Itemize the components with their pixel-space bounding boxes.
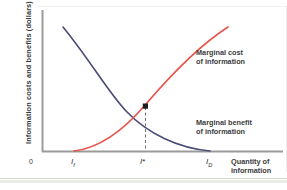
x-tick-label-i-low: If — [71, 157, 75, 168]
x-tick-label-i-star: I* — [140, 157, 145, 166]
x-axis-title: Quantity of information — [231, 157, 287, 175]
annotation-marginal-benefit-line1: Marginal benefit — [196, 118, 252, 127]
annotation-marginal-cost-line2: of information — [196, 57, 245, 66]
annotation-marginal-benefit: Marginal benefit of information — [196, 118, 252, 136]
annotation-marginal-cost: Marginal cost of information — [196, 48, 245, 66]
figure-bottom-band-inner — [0, 180, 287, 183]
x-tick-label-i-high: ID — [206, 157, 212, 168]
figure-container: Information costs and benefits (dollars)… — [0, 0, 287, 190]
annotation-marginal-cost-line1: Marginal cost — [196, 48, 245, 57]
x-axis-title-line2: information — [231, 166, 287, 175]
x-axis-title-line1: Quantity of — [231, 157, 287, 166]
annotation-marginal-benefit-line2: of information — [196, 127, 252, 136]
equilibrium-marker — [143, 104, 148, 109]
marginal-benefit-curve — [63, 27, 210, 151]
